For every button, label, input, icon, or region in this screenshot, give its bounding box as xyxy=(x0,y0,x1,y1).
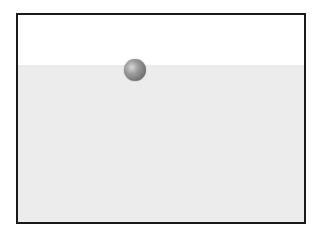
air-region xyxy=(18,15,304,65)
liquid-region xyxy=(18,65,304,222)
container-frame xyxy=(16,13,306,224)
sphere xyxy=(124,59,146,81)
